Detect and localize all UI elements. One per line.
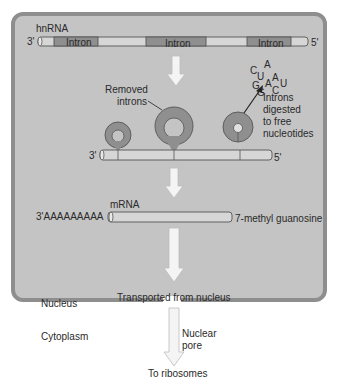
cap-label: 7-methyl guanosine [235,213,322,224]
digested-line4: nucleotides [263,128,314,139]
mrna-strand [108,212,232,222]
removed-introns-pointer [148,101,162,110]
nuclear-pore-line1: Nuclear [182,328,216,339]
intron-label-3: Intron [258,38,284,49]
digested-line1: Introns [263,92,294,103]
poly-a-tail: 3'AAAAAAAAA [36,211,104,222]
digested-line3: to free [263,116,291,127]
cytoplasm-label: Cytoplasm [41,331,88,342]
spliced-strand [100,107,272,160]
down-arrow-2 [165,168,183,198]
spliced-5-prime: 5' [274,152,281,163]
transported-label: Transported from nucleus [117,292,231,303]
nuclear-pore-line2: pore [182,340,202,351]
nucleus-label: Nucleus [41,298,77,309]
down-arrow-3 [164,228,184,282]
intron-label-2: Intron [165,38,191,49]
removed-introns-line1: Removed [105,84,148,95]
ribosomes-label: To ribosomes [148,368,207,379]
hnrna-3-prime: 3' [27,36,34,47]
down-arrow-pore [164,308,184,366]
intron-label-1: Intron [66,37,92,48]
digested-line2: digested [263,104,301,115]
mrna-label: mRNA [110,199,139,210]
hnrna-5-prime: 5' [311,37,318,48]
spliced-3-prime: 3' [89,150,96,161]
diagram-graphics [0,0,340,386]
removed-introns-line2: introns [117,96,147,107]
down-arrow-1 [167,56,185,86]
hnrna-label: hnRNA [36,23,68,34]
